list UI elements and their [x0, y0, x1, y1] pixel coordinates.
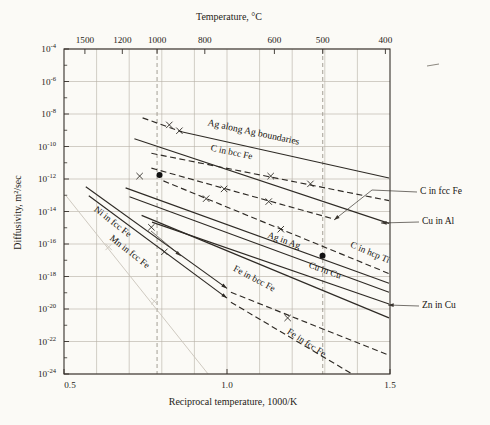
y-tick-label: 10-12 — [38, 172, 56, 184]
x-marker — [136, 173, 142, 179]
y-tick-label: 10-24 — [38, 367, 57, 379]
line-label: Fe in fcc Fe — [285, 326, 327, 358]
top-tick-label: 1200 — [113, 35, 132, 45]
callout-label-cu-in-al: Cu in Al — [422, 216, 454, 226]
y-tick-label: 10-10 — [38, 140, 57, 152]
series-line-c-in-hcp-ti — [163, 181, 389, 274]
top-axis-title: Temperature, °C — [129, 11, 329, 22]
x-marker — [148, 224, 154, 230]
x-marker — [176, 128, 182, 134]
top-tick-label: 500 — [316, 35, 330, 45]
plot-canvas: 1500120010008006005004000.51.01.510-410-… — [0, 0, 490, 425]
y-tick-label: 10-14 — [38, 205, 57, 217]
data-point-dot — [320, 253, 326, 259]
top-tick-label: 800 — [198, 35, 212, 45]
series-line-fe-in-bcc-fe — [142, 215, 389, 318]
line-label: Ag along Ag boundaries — [207, 116, 301, 146]
series-line-ag-in-ag — [126, 188, 389, 283]
series-line-ag-along-ag-boundaries-dashed-tip- — [143, 118, 182, 132]
callout-leader — [334, 190, 417, 220]
y-tick-label: 10-4 — [41, 42, 56, 54]
line-label: Ag in Ag — [266, 230, 302, 251]
x-marker — [307, 181, 313, 187]
top-tick-label: 1500 — [76, 35, 95, 45]
x-marker — [166, 122, 172, 128]
y-tick-label: 10-18 — [38, 270, 57, 282]
series-line-c-in-fcc-fe — [151, 168, 331, 218]
x-marker — [278, 226, 284, 232]
x-tick-label: 0.5 — [64, 380, 76, 390]
line-label: C in hcp Ti — [349, 240, 392, 266]
x-marker — [161, 249, 167, 255]
y-axis-title: Diffusivity, m²/sec — [12, 158, 23, 268]
series-line-ni-in-fcc-fe — [86, 187, 227, 289]
x-axis-title: Reciprocal temperature, 1000/K — [103, 396, 363, 407]
y-tick-label: 10-16 — [38, 237, 57, 249]
line-label: Fe in bcc Fe — [232, 263, 277, 293]
top-tick-label: 600 — [268, 35, 282, 45]
series-line-cu-in-al — [134, 139, 389, 224]
stray-print-mark — [427, 64, 439, 66]
y-tick-label: 10-8 — [41, 107, 56, 119]
data-point-dot — [157, 172, 163, 178]
top-tick-label: 1000 — [148, 35, 167, 45]
callout-label-zn-in-cu: Zn in Cu — [422, 300, 456, 310]
x-tick-label: 1.0 — [221, 380, 233, 390]
series-line-unlabeled-steep-line — [66, 196, 208, 374]
callout-label-c-in-fcc-fe: C in fcc Fe — [420, 186, 462, 196]
arrowhead — [334, 215, 340, 220]
line-label: Mn in fcc Fe — [108, 233, 152, 270]
y-tick-label: 10-20 — [38, 302, 57, 314]
y-tick-label: 10-6 — [41, 75, 56, 87]
series-line-mn-in-fcc-fe — [89, 196, 227, 298]
x-marker — [284, 315, 290, 321]
x-tick-label: 1.5 — [384, 380, 396, 390]
top-tick-label: 400 — [379, 35, 393, 45]
line-label: C in bcc Fe — [210, 143, 254, 162]
diffusivity-arrhenius-figure: 1500120010008006005004000.51.01.510-410-… — [0, 0, 490, 425]
x-marker — [151, 298, 157, 304]
x-marker — [203, 195, 209, 201]
y-tick-label: 10-22 — [38, 335, 56, 347]
